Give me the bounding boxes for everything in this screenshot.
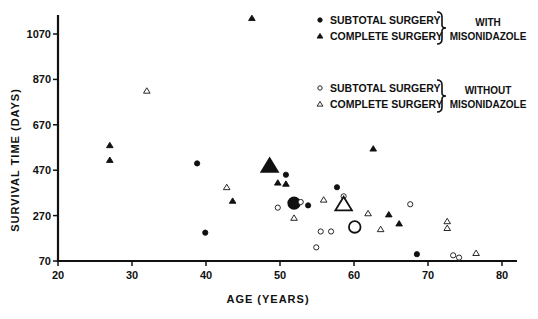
filled-circle-marker [414,252,419,257]
legend-entry-label: COMPLETE SURGERY [330,30,443,42]
open-circle-marker [275,205,280,210]
legend-group-label: WITH [475,17,501,28]
filled-triangle-marker [107,157,114,162]
y-tick-label: 470 [33,164,51,176]
filled-circle-marker [334,185,339,190]
open-triangle-marker [444,225,451,230]
x-tick-label: 40 [200,269,212,281]
y-tick-label: 70 [39,255,51,267]
open-circle-marker [298,199,303,204]
open-triangle-marker [223,184,230,189]
tick-labels: 70270470670870107020304050607080 [27,28,509,281]
open-triangle-marker [365,210,372,215]
y-tick-label: 1070 [27,28,51,40]
open-triangle-marker [291,215,298,220]
x-tick-label: 80 [496,269,508,281]
filled-triangle-marker [249,15,256,20]
filled-circle-marker [203,230,208,235]
filled-triangle-marker [229,198,236,203]
legend-group-label: WITHOUT [465,85,512,96]
open-circle-marker [328,229,333,234]
mean-open-circle-marker [349,221,361,233]
open-triangle-marker [377,226,384,231]
filled-circle-marker [306,203,311,208]
x-axis-title: AGE (YEARS) [226,293,309,305]
legend: SUBTOTAL SURGERYCOMPLETE SURGERYWITHMISO… [317,12,527,112]
mean-filled-triangle-marker [261,158,278,172]
legend-entry-label: COMPLETE SURGERY [330,98,443,110]
filled-triangle-marker [107,142,114,147]
open-circle-marker [318,229,323,234]
filled-triangle-marker [283,181,290,186]
legend-open-circle-icon [318,86,322,90]
data-points [107,15,480,260]
mean-open-triangle-marker [335,197,352,211]
open-triangle-marker [473,250,480,255]
legend-group-label: MISONIDAZOLE [450,31,527,42]
open-circle-marker [456,255,461,260]
open-circle-marker [451,253,456,258]
y-tick-label: 270 [33,210,51,222]
x-tick-label: 50 [274,269,286,281]
filled-triangle-marker [370,146,377,151]
legend-group-label: MISONIDAZOLE [450,99,527,110]
legend-filled-triangle-icon [317,33,323,38]
open-triangle-marker [144,88,151,93]
legend-entry-label: SUBTOTAL SURGERY [330,82,440,94]
y-tick-label: 870 [33,73,51,85]
filled-triangle-marker [385,211,392,216]
open-triangle-marker [444,218,451,223]
x-tick-label: 20 [52,269,64,281]
y-axis-title: SURVIVAL TIME (DAYS) [9,88,21,232]
y-tick-label: 670 [33,119,51,131]
filled-circle-marker [195,161,200,166]
filled-triangle-marker [396,221,403,226]
open-circle-marker [314,245,319,250]
legend-open-triangle-icon [317,101,323,106]
x-tick-label: 30 [126,269,138,281]
filled-triangle-marker [274,180,281,185]
legend-filled-circle-icon [318,18,322,22]
x-tick-label: 70 [422,269,434,281]
scatter-chart: 70270470670870107020304050607080 AGE (YE… [0,0,538,319]
legend-entry-label: SUBTOTAL SURGERY [330,14,440,26]
open-triangle-marker [320,197,327,202]
x-tick-label: 60 [348,269,360,281]
open-circle-marker [408,202,413,207]
filled-circle-marker [283,172,288,177]
